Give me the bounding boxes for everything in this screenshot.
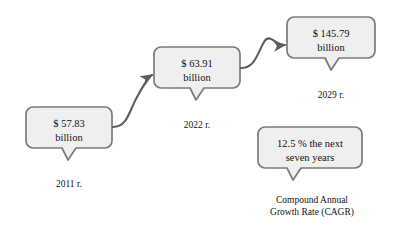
caption-cagr: Compound Annual Growth Rate (CAGR)	[248, 194, 376, 219]
bubble-value-2022[interactable]: $ 63.91 billion	[154, 47, 240, 95]
arrow-2022-to-2029	[241, 38, 285, 68]
bubble-value-2011[interactable]: $ 57.83 billion	[26, 107, 112, 155]
arrow-2011-to-2022	[113, 75, 152, 127]
bubble-value-2029-label: $ 145.79 billion	[309, 27, 354, 55]
bubble-value-2011-label: $ 57.83 billion	[49, 117, 89, 145]
bubble-value-2022-label: $ 63.91 billion	[177, 57, 217, 85]
caption-2029: 2029 r.	[287, 89, 375, 101]
caption-2011: 2011 r.	[26, 178, 112, 190]
caption-2022: 2022 r.	[154, 119, 240, 131]
bubble-value-cagr-label: 12.5 % the next seven years	[273, 137, 347, 165]
bubble-value-2029[interactable]: $ 145.79 billion	[287, 17, 375, 65]
bubble-value-cagr[interactable]: 12.5 % the next seven years	[258, 127, 362, 175]
